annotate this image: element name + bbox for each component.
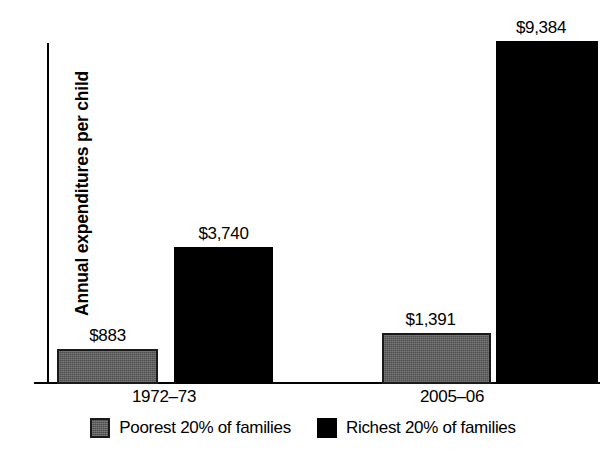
legend-label-richest: Richest 20% of families (346, 418, 516, 438)
legend-item-poorest: Poorest 20% of families (90, 418, 291, 438)
bar-2005-06-poorest (382, 333, 491, 384)
bar-value-1972-73-poorest: $883 (57, 326, 158, 346)
bar-2005-06-richest (496, 41, 598, 384)
legend-label-poorest: Poorest 20% of families (119, 418, 291, 438)
bar-value-1972-73-richest: $3,740 (174, 224, 273, 244)
legend-swatch-richest-icon (317, 418, 337, 438)
plot-area: $883 $3,740 $1,391 $9,384 (0, 0, 606, 384)
bar-value-2005-06-richest: $9,384 (490, 18, 592, 38)
bar-1972-73-richest (174, 247, 273, 384)
legend: Poorest 20% of families Richest 20% of f… (0, 418, 606, 438)
legend-swatch-poorest-icon (90, 418, 110, 438)
bar-chart: Annual expenditures per child $883 $3,74… (0, 0, 606, 454)
x-axis-label-2005-06: 2005–06 (392, 387, 512, 407)
bar-value-2005-06-poorest: $1,391 (376, 310, 485, 330)
legend-item-richest: Richest 20% of families (317, 418, 516, 438)
x-axis-label-1972-73: 1972–73 (104, 387, 224, 407)
bar-1972-73-poorest (57, 349, 158, 384)
